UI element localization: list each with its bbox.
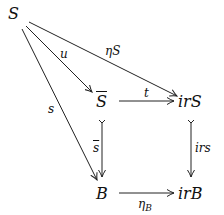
label-eta-b-sub: B <box>145 203 152 213</box>
node-S-bar: S <box>96 94 107 110</box>
label-u: u <box>60 48 68 60</box>
mono-tail-sbar <box>99 120 105 123</box>
label-eta-b: ηB <box>138 198 152 213</box>
arrow-eta-s <box>29 22 177 96</box>
mono-tail-irs <box>188 120 194 123</box>
arrow-u <box>26 26 92 92</box>
label-t: t <box>144 87 149 99</box>
label-irs: irs <box>195 142 211 154</box>
label-eta-s: ηS <box>105 45 120 57</box>
node-irB: irB <box>178 186 203 202</box>
label-s: s <box>48 103 54 115</box>
node-S: S <box>8 6 19 22</box>
node-irS: irS <box>178 94 202 110</box>
label-s-bar: s <box>93 142 99 154</box>
node-B: B <box>96 186 108 202</box>
